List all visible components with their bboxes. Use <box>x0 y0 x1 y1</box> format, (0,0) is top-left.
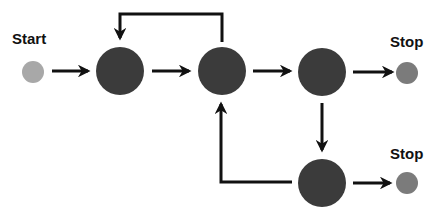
stop-node-top <box>396 62 418 84</box>
stop-label-top: Stop <box>390 33 423 50</box>
flow-diagram: Start Stop Stop <box>0 0 436 214</box>
arrow-n4-to-n2-loop <box>221 104 292 182</box>
start-label: Start <box>12 30 46 47</box>
arrow-n2-to-n1-feedback <box>120 14 222 42</box>
stop-label-bottom: Stop <box>390 145 423 162</box>
stop-node-bottom <box>396 172 418 194</box>
process-node-4 <box>298 159 346 207</box>
process-node-3 <box>298 48 346 96</box>
process-node-2 <box>198 47 246 95</box>
process-node-1 <box>96 47 144 95</box>
start-node <box>22 61 44 83</box>
